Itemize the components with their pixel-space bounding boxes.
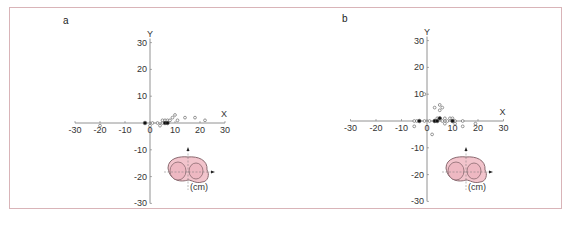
data-point — [143, 121, 147, 125]
x-axis-label: X — [500, 107, 506, 117]
data-point — [443, 122, 446, 125]
y-tick-label: 20 — [414, 62, 424, 72]
data-point — [99, 124, 102, 127]
y-tick-label: 10 — [137, 91, 147, 101]
unit-label: (cm) — [468, 182, 486, 192]
y-tick-label: 30 — [137, 38, 147, 48]
y-tick-label: -20 — [411, 170, 424, 180]
data-point — [151, 122, 154, 125]
x-tick-label: 0 — [424, 123, 429, 133]
arrow-up-icon — [465, 147, 468, 151]
data-point — [438, 104, 441, 107]
data-point — [418, 119, 422, 123]
x-tick-label: -30 — [68, 125, 81, 135]
data-point — [174, 114, 177, 117]
x-tick-label: 10 — [170, 125, 180, 135]
data-point — [176, 119, 179, 122]
data-point — [446, 120, 449, 123]
data-point — [431, 133, 434, 136]
data-point — [438, 117, 442, 121]
data-point — [441, 106, 444, 109]
data-point — [438, 109, 441, 112]
panel-label: b — [342, 13, 348, 24]
data-point — [194, 116, 197, 119]
arrow-right-icon — [489, 171, 493, 174]
data-point — [428, 120, 431, 123]
data-point — [159, 124, 162, 127]
data-point — [413, 125, 416, 128]
data-point — [461, 120, 464, 123]
y-tick-label: 30 — [414, 36, 424, 46]
data-point — [184, 116, 187, 119]
panel-label: a — [63, 15, 69, 26]
x-tick-label: -10 — [118, 125, 131, 135]
tibial-plateau-inset: (cm) — [442, 147, 493, 192]
data-point — [443, 117, 446, 120]
data-point — [156, 122, 159, 125]
data-point — [171, 116, 174, 119]
figure-svg: a-30-20-100102030302010-10-20-30XY(cm)b-… — [0, 0, 570, 225]
y-tick-label: 10 — [414, 89, 424, 99]
data-point — [433, 106, 436, 109]
x-axis-label: X — [221, 109, 227, 119]
arrow-up-icon — [187, 147, 190, 151]
data-point — [166, 121, 170, 125]
y-tick-label: -10 — [134, 145, 147, 155]
data-point — [461, 125, 464, 128]
data-point — [451, 119, 455, 123]
y-tick-label: 20 — [137, 64, 147, 74]
data-point — [454, 122, 457, 125]
x-tick-label: 30 — [220, 125, 230, 135]
data-point — [149, 124, 152, 127]
data-point — [441, 120, 444, 123]
x-tick-label: 20 — [195, 125, 205, 135]
data-point — [423, 93, 426, 96]
x-tick-label: -10 — [395, 123, 408, 133]
data-point — [423, 120, 426, 123]
y-tick-label: -30 — [411, 196, 424, 206]
data-point — [204, 119, 207, 122]
x-tick-label: 30 — [498, 123, 508, 133]
arrow-right-icon — [211, 171, 215, 174]
y-tick-label: -10 — [411, 143, 424, 153]
x-tick-label: -30 — [344, 123, 357, 133]
x-tick-label: -20 — [369, 123, 382, 133]
tibial-plateau-inset: (cm) — [164, 147, 215, 192]
y-tick-label: -20 — [134, 172, 147, 182]
scatter-panel-a: a-30-20-100102030302010-10-20-30XY(cm) — [63, 15, 230, 208]
y-axis-label: Y — [147, 29, 153, 39]
y-tick-label: -30 — [134, 198, 147, 208]
scatter-panel-b: b-30-20-100102030302010-10-20-30XY(cm) — [342, 13, 509, 206]
unit-label: (cm) — [190, 182, 208, 192]
y-axis-label: Y — [424, 27, 430, 37]
data-point — [169, 119, 172, 122]
data-point — [474, 122, 477, 125]
